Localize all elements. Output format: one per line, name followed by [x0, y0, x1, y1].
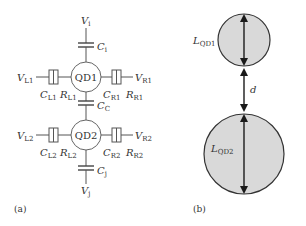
separation-arrowhead-top	[240, 68, 248, 76]
panel-b-label: (b)	[193, 204, 206, 214]
separation-arrowhead-bottom	[240, 104, 248, 112]
label-v-l1: VL1	[17, 72, 33, 85]
panel-a-circuit: Vi Ci QD1 VL1 CL1 RL1 VR1 CR1 RR1 CC QD2	[14, 15, 152, 214]
panel-b-geometry: LQD1 d LQD2 (b)	[192, 14, 284, 214]
label-l-qd1: LQD1	[192, 35, 215, 48]
label-r-r2: RR2	[125, 147, 143, 160]
panel-a-label: (a)	[14, 204, 26, 214]
label-v-r1: VR1	[135, 72, 152, 85]
label-v-j: Vj	[81, 185, 90, 198]
label-d: d	[250, 84, 256, 95]
label-v-l2: VL2	[17, 130, 33, 143]
label-v-r2: VR2	[135, 130, 152, 143]
label-c-l1: CL1	[40, 89, 57, 102]
label-c-r1: CR1	[103, 89, 120, 102]
label-r-l2: RL2	[59, 147, 77, 160]
qd2-label: QD2	[75, 130, 98, 141]
double-quantum-dot-figure: Vi Ci QD1 VL1 CL1 RL1 VR1 CR1 RR1 CC QD2	[0, 0, 306, 226]
label-c-c: CC	[97, 100, 110, 113]
label-c-j: Cj	[97, 165, 107, 178]
label-r-r1: RR1	[125, 89, 143, 102]
qd1-label: QD1	[75, 72, 98, 83]
label-r-l1: RL1	[59, 89, 77, 102]
label-c-i: Ci	[97, 41, 108, 54]
label-v-i: Vi	[81, 15, 91, 28]
label-c-r2: CR2	[103, 147, 120, 160]
label-c-l2: CL2	[40, 147, 57, 160]
